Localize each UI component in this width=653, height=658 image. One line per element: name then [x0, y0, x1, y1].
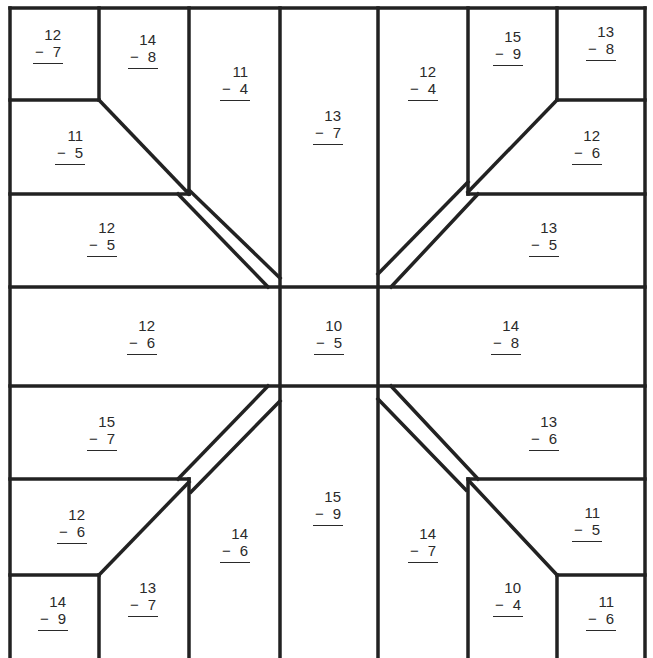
subtrahend: 4 [240, 80, 248, 97]
problem-br-bottom-b: 14 −7 [408, 525, 438, 563]
minuend: 10 [493, 579, 523, 596]
problem-bl-side-b: 15 −7 [87, 413, 117, 451]
subtrahend: 4 [513, 596, 521, 613]
problem-bl-bottom-a: 13 −7 [128, 579, 158, 617]
minuend: 11 [55, 127, 85, 144]
minus-sign: − [33, 43, 44, 60]
subtrahend: 9 [58, 610, 66, 627]
problem-mid-right: 14 −8 [491, 317, 521, 355]
minus-sign: − [586, 610, 597, 627]
subtrahend: 9 [513, 45, 521, 62]
subtrahend: 4 [428, 80, 436, 97]
subtrahend-row: −8 [586, 40, 616, 61]
minus-sign: − [127, 334, 138, 351]
minus-sign: − [408, 542, 419, 559]
subtrahend: 8 [148, 48, 156, 65]
problem-mid-left: 12 −6 [127, 317, 157, 355]
problem-br-side-b: 13 −6 [529, 413, 559, 451]
problem-tl-side-b: 12 −5 [87, 219, 117, 257]
subtrahend-row: −6 [220, 542, 250, 563]
problem-bl-corner: 14 −9 [38, 593, 68, 631]
minus-sign: − [493, 596, 504, 613]
subtrahend-row: −5 [87, 236, 117, 257]
subtrahend: 6 [592, 144, 600, 161]
minuend: 13 [529, 219, 559, 236]
subtrahend: 6 [549, 430, 557, 447]
minuend: 10 [314, 317, 344, 334]
minus-sign: − [314, 334, 325, 351]
problem-tr-side-b: 13 −5 [529, 219, 559, 257]
subtrahend-row: −4 [408, 80, 438, 101]
subtrahend-row: −7 [33, 43, 63, 64]
minus-sign: − [55, 144, 66, 161]
quilt-worksheet: 12 −7 14 −8 11 −4 13 −7 12 −4 15 −9 13 −… [0, 0, 653, 658]
subtrahend: 8 [511, 334, 519, 351]
problem-top-center: 13 −7 [313, 107, 343, 145]
minus-sign: − [408, 80, 419, 97]
minus-sign: − [57, 523, 68, 540]
minuend: 14 [128, 31, 158, 48]
minuend: 12 [572, 127, 602, 144]
subtrahend-row: −6 [57, 523, 87, 544]
minus-sign: − [220, 542, 231, 559]
subtrahend: 5 [107, 236, 115, 253]
subtrahend-row: −5 [572, 521, 602, 542]
subtrahend: 8 [606, 40, 614, 57]
minus-sign: − [313, 505, 324, 522]
subtrahend-row: −7 [408, 542, 438, 563]
minuend: 11 [220, 63, 250, 80]
subtrahend: 5 [549, 236, 557, 253]
problem-bl-side-a: 12 −6 [57, 506, 87, 544]
problem-br-bottom-a: 10 −4 [493, 579, 523, 617]
minus-sign: − [493, 45, 504, 62]
subtrahend: 6 [240, 542, 248, 559]
subtrahend: 7 [53, 43, 61, 60]
subtrahend-row: −6 [529, 430, 559, 451]
minuend: 15 [313, 488, 343, 505]
minuend: 14 [491, 317, 521, 334]
subtrahend-row: −6 [572, 144, 602, 165]
minuend: 14 [38, 593, 68, 610]
problem-br-corner: 11 −6 [586, 593, 616, 631]
subtrahend: 6 [77, 523, 85, 540]
minus-sign: − [220, 80, 231, 97]
minus-sign: − [87, 236, 98, 253]
minus-sign: − [529, 236, 540, 253]
problem-tl-corner: 12 −7 [33, 26, 63, 64]
subtrahend-row: −5 [529, 236, 559, 257]
minuend: 12 [127, 317, 157, 334]
subtrahend-row: −9 [38, 610, 68, 631]
minuend: 12 [33, 26, 63, 43]
minus-sign: − [38, 610, 49, 627]
minuend: 15 [493, 28, 523, 45]
minus-sign: − [128, 596, 139, 613]
subtrahend: 7 [107, 430, 115, 447]
minus-sign: − [128, 48, 139, 65]
minuend: 14 [220, 525, 250, 542]
problem-tl-top-b: 11 −4 [220, 63, 250, 101]
subtrahend-row: −7 [313, 124, 343, 145]
problem-tl-side-a: 11 −5 [55, 127, 85, 165]
problem-tr-top-a: 15 −9 [493, 28, 523, 66]
subtrahend-row: −5 [314, 334, 344, 355]
minus-sign: − [529, 430, 540, 447]
subtrahend-row: −8 [128, 48, 158, 69]
subtrahend-row: −4 [493, 596, 523, 617]
problem-bottom-center: 15 −9 [313, 488, 343, 526]
subtrahend: 7 [428, 542, 436, 559]
minuend: 13 [128, 579, 158, 596]
subtrahend-row: −6 [586, 610, 616, 631]
subtrahend: 5 [75, 144, 83, 161]
subtrahend-row: −5 [55, 144, 85, 165]
subtrahend-row: −8 [491, 334, 521, 355]
minuend: 14 [408, 525, 438, 542]
subtrahend-row: −7 [87, 430, 117, 451]
subtrahend: 6 [606, 610, 614, 627]
minus-sign: − [87, 430, 98, 447]
subtrahend-row: −9 [493, 45, 523, 66]
problem-tr-corner: 13 −8 [586, 23, 616, 61]
subtrahend-row: −4 [220, 80, 250, 101]
minuend: 13 [313, 107, 343, 124]
minuend: 11 [572, 504, 602, 521]
minuend: 12 [87, 219, 117, 236]
